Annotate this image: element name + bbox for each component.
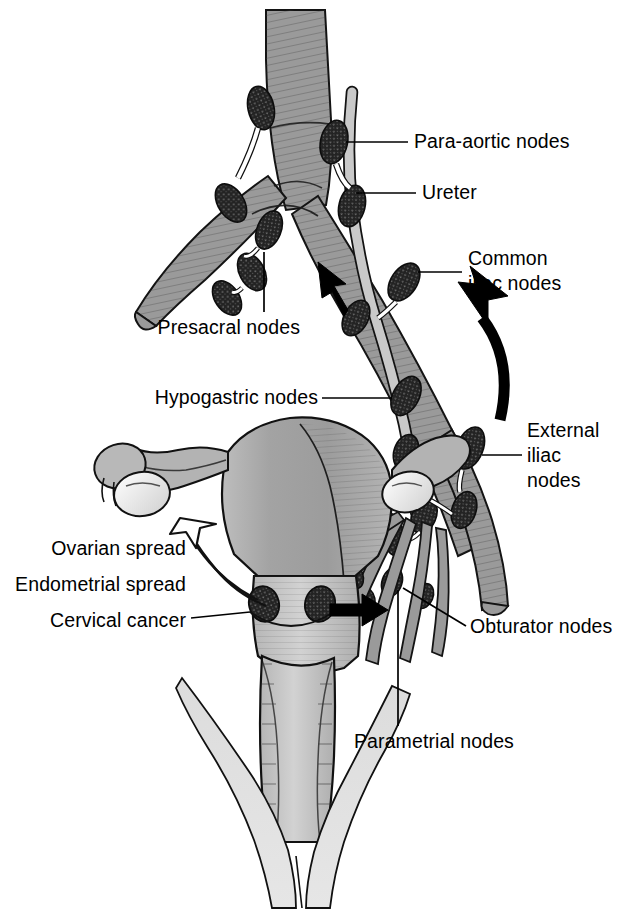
label-external-iliac-nodes-line3: nodes [527, 468, 581, 493]
label-common-iliac-nodes-line1: Common [468, 246, 548, 271]
label-ovarian-spread: Ovarian spread [0, 536, 186, 561]
label-obturator-nodes: Obturator nodes [470, 614, 612, 639]
label-external-iliac-nodes-line2: iliac [527, 443, 561, 468]
label-para-aortic-nodes: Para-aortic nodes [414, 129, 570, 154]
label-ureter: Ureter [422, 180, 477, 205]
label-external-iliac-nodes-line1: External [527, 418, 599, 443]
label-parametrial-nodes: Parametrial nodes [354, 729, 514, 754]
label-presacral-nodes: Presacral nodes [0, 315, 300, 340]
label-cervical-cancer: Cervical cancer [0, 608, 186, 633]
label-endometrial-spread: Endometrial spread [0, 572, 186, 597]
figure-canvas: Para-aortic nodes Ureter Common iliac no… [0, 0, 626, 914]
label-hypogastric-nodes: Hypogastric nodes [0, 385, 318, 410]
label-common-iliac-nodes-line2: iliac nodes [468, 271, 561, 296]
